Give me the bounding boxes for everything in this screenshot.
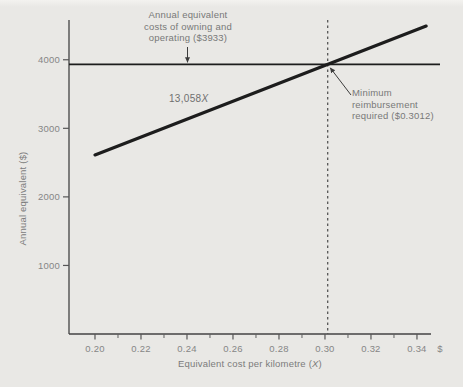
annotation-line: operating ($3933) (123, 32, 253, 44)
annotation-line: costs of owning and (123, 21, 253, 33)
annotation-line: required ($0.3012) (352, 110, 434, 122)
annotation-line: Annual equivalent (123, 9, 253, 21)
x-tick-label: 0.28 (269, 343, 288, 354)
x-tick-label: 0.26 (223, 343, 242, 354)
y-tick-label: 4000 (38, 54, 60, 65)
x-axis-unit-label: $ (437, 343, 443, 354)
y-axis-title: Annual equivalent ($) (17, 126, 28, 272)
slope-equation-label: 13,058X (169, 93, 208, 104)
minimum-annotation-arrow (330, 68, 351, 95)
x-tick-label: 0.22 (131, 343, 150, 354)
x-tick-label: 0.20 (85, 343, 104, 354)
annotation-owning-costs: Annual equivalent costs of owning and op… (123, 9, 253, 44)
x-tick-label: 0.32 (361, 343, 380, 354)
y-tick-label: 1000 (38, 260, 60, 271)
annotation-minimum-reimbursement: Minimum reimbursement required ($0.3012) (352, 87, 434, 122)
y-axis-title-text: Annual equivalent ($) (17, 152, 28, 246)
annotation-line: Minimum (352, 87, 434, 99)
x-tick-label: 0.30 (315, 343, 334, 354)
x-axis-title: Equivalent cost per kilometre (X) (100, 358, 400, 369)
chart-canvas: 10002000300040000.200.220.240.260.280.30… (0, 0, 463, 387)
x-axis-title-text: Equivalent cost per kilometre ( (178, 358, 312, 369)
x-tick-label: 0.34 (407, 343, 426, 354)
x-tick-label: 0.24 (177, 343, 196, 354)
y-tick-label: 2000 (38, 191, 60, 202)
y-tick-label: 3000 (38, 123, 60, 134)
chart-figure: 10002000300040000.200.220.240.260.280.30… (0, 0, 463, 387)
slope-variable-x: X (201, 93, 208, 104)
annotation-line: reimbursement (352, 99, 434, 111)
slope-coefficient: 13,058 (169, 93, 201, 104)
x-axis-title-close: ) (319, 358, 322, 369)
